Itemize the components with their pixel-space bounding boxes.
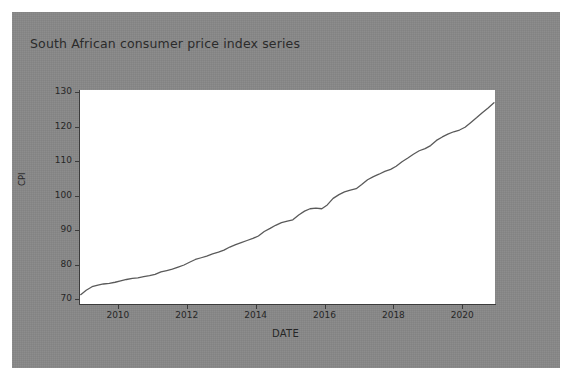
x-tick-mark: [325, 305, 326, 309]
y-tick-mark: [75, 265, 79, 266]
x-tick-label: 2012: [165, 310, 209, 320]
x-tick-mark: [393, 305, 394, 309]
y-tick-label: 70: [42, 293, 72, 303]
cpi-series-line: [81, 103, 494, 295]
y-axis-label: CPI: [17, 172, 27, 186]
screenshot-root: South African consumer price index serie…: [0, 0, 571, 385]
y-tick-mark: [75, 299, 79, 300]
x-tick-label: 2018: [371, 310, 415, 320]
x-tick-mark: [256, 305, 257, 309]
y-tick-mark: [75, 127, 79, 128]
y-tick-label: 120: [42, 121, 72, 131]
y-tick-label: 90: [42, 224, 72, 234]
plot-area: [80, 90, 495, 304]
y-axis-spine: [79, 90, 80, 305]
x-axis-label: DATE: [0, 328, 571, 339]
x-tick-label: 2014: [234, 310, 278, 320]
y-tick-mark: [75, 161, 79, 162]
y-tick-label: 130: [42, 86, 72, 96]
x-tick-mark: [462, 305, 463, 309]
x-tick-label: 2016: [303, 310, 347, 320]
cpi-line-chart: [80, 90, 495, 304]
y-tick-mark: [75, 92, 79, 93]
y-tick-label: 100: [42, 190, 72, 200]
x-tick-mark: [187, 305, 188, 309]
x-tick-label: 2020: [440, 310, 484, 320]
y-tick-mark: [75, 196, 79, 197]
x-tick-label: 2010: [96, 310, 140, 320]
y-tick-label: 80: [42, 259, 72, 269]
x-axis-spine: [79, 304, 496, 305]
y-tick-label: 110: [42, 155, 72, 165]
x-tick-mark: [118, 305, 119, 309]
y-tick-mark: [75, 230, 79, 231]
